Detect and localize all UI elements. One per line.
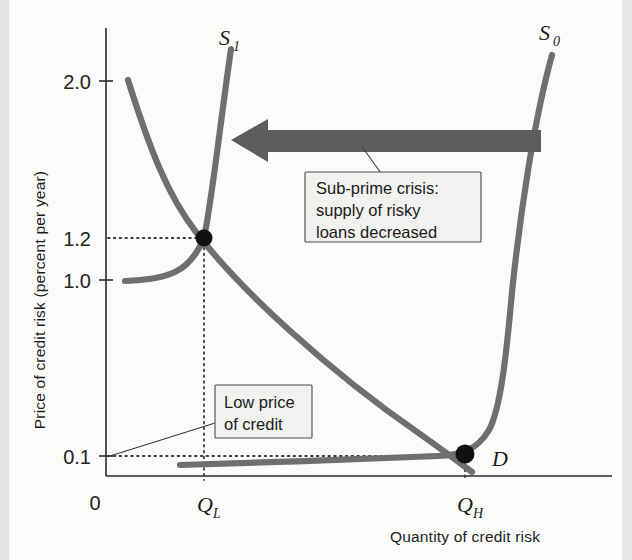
x-tick-qh-sub: H	[472, 506, 484, 521]
curve-label-s0-base: S	[539, 20, 550, 45]
y-tick-label-0-1: 0.1	[63, 446, 91, 468]
supply-demand-chart: 2.0 1.2 1.0 0.1 0 Price of credit risk (…	[0, 0, 632, 560]
y-tick-label-1-0: 1.0	[63, 270, 91, 292]
x-tick-qh-base: Q	[457, 492, 473, 517]
x-tick-label-ql: Q L	[197, 492, 221, 521]
curve-label-s0: S 0	[539, 20, 560, 49]
x-tick-label-qh: Q H	[457, 492, 484, 521]
curve-label-s1-base: S	[219, 25, 230, 50]
axes-group	[99, 28, 612, 476]
supply-shift-arrow-icon	[231, 119, 541, 162]
x-axis-title: Quantity of credit risk	[390, 528, 540, 545]
shift-note-line-2: supply of risky	[316, 201, 421, 219]
equilibrium-dot-high	[456, 445, 475, 464]
x-tick-ql-base: Q	[197, 492, 213, 517]
low-price-line-2: of credit	[224, 415, 283, 433]
low-price-leader-line	[110, 423, 215, 456]
curve-label-s0-sub: 0	[553, 34, 560, 49]
origin-label: 0	[89, 492, 100, 514]
equilibrium-dot-low	[196, 230, 213, 247]
y-axis-title: Price of credit risk (percent per year)	[31, 171, 48, 429]
y-tick-label-1-2: 1.2	[63, 228, 91, 250]
curve-label-s1: S 1	[219, 25, 240, 54]
y-tick-label-2-0: 2.0	[63, 71, 91, 93]
shift-note-line-1: Sub-prime crisis:	[316, 179, 439, 197]
shift-note-line-3: loans decreased	[316, 223, 437, 241]
curve-label-d: D	[491, 446, 508, 471]
low-price-line-1: Low price	[224, 393, 295, 411]
curve-label-s1-sub: 1	[233, 39, 240, 54]
supply-curve-s1	[125, 49, 231, 281]
x-tick-ql-sub: L	[212, 506, 221, 521]
y-tick-labels: 2.0 1.2 1.0 0.1	[63, 71, 91, 468]
figure-root: 2.0 1.2 1.0 0.1 0 Price of credit risk (…	[0, 0, 632, 560]
